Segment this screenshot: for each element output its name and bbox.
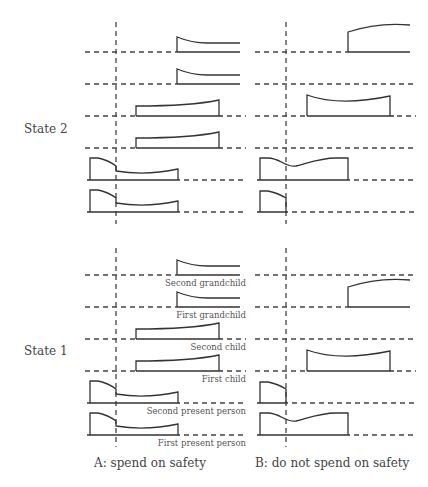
lifetime-profile-state2-A-row-3 (136, 132, 223, 148)
lifetime-profile-state2-A-row-5 (87, 190, 180, 212)
row-label-second-child: Second child (86, 342, 246, 352)
lifetime-profile-state2-A-row-4 (87, 158, 180, 180)
lifetime-profile-state1-A-row-0 (177, 260, 240, 275)
row-label-first-present-person: First present person (86, 438, 246, 448)
lifetime-profile-state1-A-row-3 (136, 355, 223, 371)
row-label-second-grandchild: Second grandchild (86, 278, 246, 288)
panel-b-label: B: do not spend on safety (255, 456, 409, 470)
row-label-first-grandchild: First grandchild (86, 310, 246, 320)
lifetime-profile-state1-A-row-1 (177, 292, 240, 307)
lifetime-profile-state1-A-row-5 (87, 413, 180, 435)
lifetime-profile-state2-A-row-2 (136, 100, 223, 116)
lifetime-profile-state1-B-row-3 (307, 350, 394, 371)
state-2-label: State 2 (24, 122, 68, 136)
row-label-first-child: First child (86, 374, 246, 384)
state-1-label: State 1 (24, 344, 68, 358)
lifetime-profile-state1-A-row-4 (87, 381, 180, 403)
lifetime-profile-state2-A-row-0 (177, 37, 240, 52)
lifetime-profile-state2-B-row-4 (257, 158, 350, 180)
panel-a-label: A: spend on safety (94, 456, 206, 470)
lifetime-profile-state1-B-row-4 (257, 382, 288, 403)
lifetime-profile-state2-B-row-2 (307, 95, 394, 116)
lifetime-profile-state1-B-row-5 (257, 413, 350, 435)
lifetime-profile-state1-B-row-1 (348, 279, 410, 307)
lifetime-profile-state2-A-row-1 (177, 69, 240, 84)
lifetime-profile-state2-B-row-5 (257, 191, 288, 212)
lifetime-profile-state1-A-row-2 (136, 323, 223, 339)
lifetime-profile-state2-B-row-0 (348, 24, 410, 52)
row-label-second-present-person: Second present person (86, 406, 246, 416)
